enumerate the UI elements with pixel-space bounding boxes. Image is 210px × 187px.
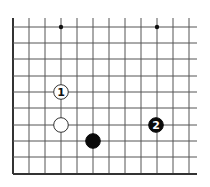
black-stone-icon xyxy=(86,134,101,149)
star-point-icon xyxy=(59,25,63,29)
go-board: 12 xyxy=(0,0,210,187)
white-stone xyxy=(54,118,69,133)
move-number-label: 2 xyxy=(152,119,160,132)
white-stone-icon xyxy=(54,118,69,133)
white-stone-1: 1 xyxy=(54,85,69,100)
black-stone xyxy=(86,134,101,149)
star-point-icon xyxy=(155,25,159,29)
black-stone-2: 2 xyxy=(149,118,164,133)
move-number-label: 1 xyxy=(57,86,65,99)
board-grid xyxy=(13,18,197,174)
